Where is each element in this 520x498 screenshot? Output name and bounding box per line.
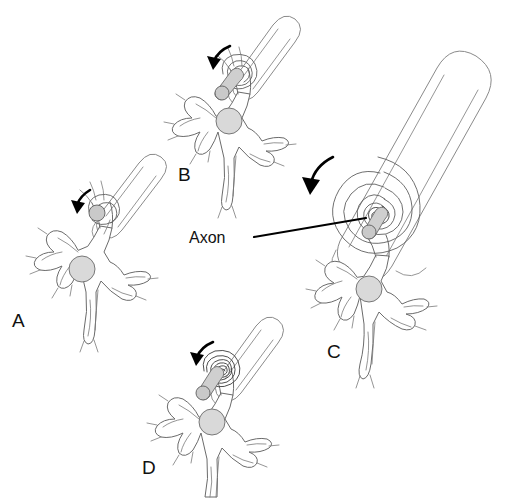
panel-letter-c: C — [327, 341, 341, 362]
panel-c-nucleus — [356, 276, 382, 302]
panel-b: B — [164, 16, 301, 218]
panel-a-rotation-arrow — [71, 190, 90, 214]
panel-d: D — [142, 317, 284, 497]
panel-d-nucleus — [199, 409, 225, 435]
panel-letter-a: A — [12, 310, 25, 331]
panel-a: A — [12, 154, 167, 352]
panel-c: C — [302, 51, 491, 388]
panel-a-axon-tip — [89, 205, 105, 221]
panel-letter-b: B — [178, 164, 191, 185]
myelination-figure: A — [0, 0, 520, 498]
axon-label: Axon — [189, 229, 225, 246]
panel-letter-d: D — [142, 457, 156, 478]
panel-b-nucleus — [216, 108, 242, 134]
panel-a-nucleus — [69, 256, 95, 282]
panel-c-rotation-arrow — [302, 157, 333, 195]
